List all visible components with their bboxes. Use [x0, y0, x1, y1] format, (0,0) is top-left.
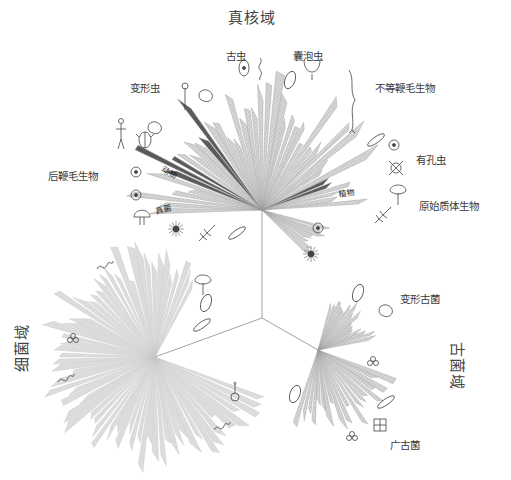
bacterium-1-icon — [97, 261, 113, 269]
foram-icon — [389, 140, 399, 150]
group-label-euryarchaeota: 广古菌 — [390, 437, 420, 452]
fern-icon — [375, 207, 391, 223]
diatom-chain-icon — [349, 70, 355, 133]
ciliate-icon — [304, 60, 320, 80]
archaea-rods-icon — [376, 394, 396, 410]
fan-archaea-lower — [293, 350, 396, 429]
bacillus-icon — [192, 317, 212, 333]
fan-archaea-upper — [318, 301, 375, 350]
amoeba-icon — [199, 90, 212, 102]
paramecium-icon — [282, 70, 298, 90]
wedge-label: 真菌 — [154, 203, 172, 216]
tree-icon — [390, 185, 406, 205]
archaea-cell-1-icon — [350, 283, 366, 303]
group-label-excavata: 古虫 — [226, 48, 246, 63]
domain-label-bacteria: 细菌域 — [10, 324, 31, 372]
phylogeny-fans — [43, 71, 397, 472]
radiolarian-icon — [389, 161, 403, 175]
choanoflagellate-icon — [131, 167, 141, 177]
fan-eukarya-lower — [262, 210, 330, 253]
fan-bacteria-fan — [43, 242, 265, 472]
coccus-icon — [198, 293, 214, 313]
cryptomonad-icon — [227, 225, 247, 241]
heliozoan-icon — [168, 221, 184, 237]
flower-microbe-icon — [195, 275, 211, 295]
cercozoan-icon — [199, 225, 215, 241]
group-label-alveolata: 囊泡虫 — [293, 48, 323, 63]
yeast-icon — [134, 210, 150, 225]
group-label-archaeplastida: 原始质体生物 — [419, 198, 479, 213]
human-icon — [116, 119, 126, 150]
archaea-cell-2-icon — [379, 305, 392, 317]
domain-label-archaea: 古菌域 — [448, 342, 469, 390]
domain-label-eukarya: 真核域 — [228, 6, 276, 27]
archaea-cluster-2-icon — [347, 432, 358, 441]
tree-of-life-diagram: 动物真菌植物 — [0, 0, 511, 480]
group-label-opisthokonta: 后鞭毛生物 — [48, 168, 98, 183]
group-label-amoebozoa: 变形虫 — [130, 80, 160, 95]
group-label-stramenopiles: 不等鞭毛生物 — [375, 80, 435, 95]
archaea-cluster-1-icon — [368, 357, 379, 366]
sarcina-icon — [374, 419, 386, 431]
trypanosome-icon — [259, 58, 262, 80]
group-label-rhizaria: 有孔虫 — [416, 152, 446, 167]
sponge-icon — [148, 122, 161, 134]
group-label-crenarchaeota: 变形古菌 — [400, 291, 440, 306]
branch-archaea — [262, 318, 318, 350]
